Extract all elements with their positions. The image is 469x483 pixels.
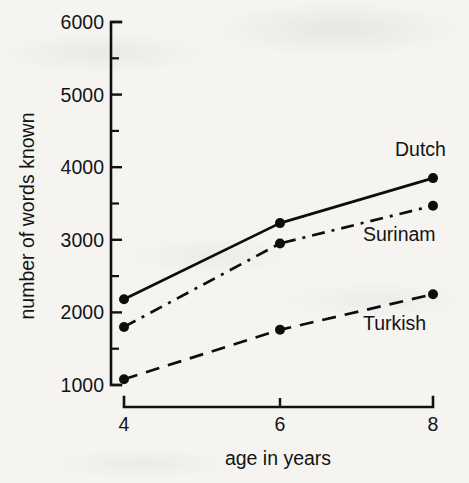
series-turkish-point-age4 [119, 374, 129, 384]
series-dutch: Dutch [119, 138, 446, 304]
x-axis-line [124, 397, 433, 407]
x-tick-label-8: 8 [428, 413, 439, 435]
y-tick-label-6000: 6000 [61, 11, 105, 33]
chart-figure: 6000 5000 4000 3000 2000 1000 number of … [0, 0, 469, 483]
series-turkish-point-age8 [428, 289, 438, 299]
series-surinam-point-age4 [119, 322, 129, 332]
y-axis-title: number of words known [16, 112, 38, 319]
x-tick-label-4: 4 [119, 413, 130, 435]
series-surinam-point-age8 [428, 201, 438, 211]
x-tick-label-6: 6 [275, 413, 286, 435]
series-dutch-point-age8 [428, 173, 438, 183]
x-axis-title: age in years [225, 447, 331, 469]
series-turkish-point-age6 [275, 325, 285, 335]
series-turkish-line [124, 294, 433, 379]
series-turkish: Turkish [119, 289, 438, 384]
series-dutch-label: Dutch [395, 138, 446, 160]
line-chart: 6000 5000 4000 3000 2000 1000 number of … [0, 0, 469, 483]
y-tick-label-5000: 5000 [61, 84, 105, 106]
series-turkish-label: Turkish [363, 312, 426, 334]
series-surinam-point-age6 [275, 238, 285, 248]
y-tick-label-3000: 3000 [61, 229, 105, 251]
series-dutch-point-age6 [275, 218, 285, 228]
series-dutch-point-age4 [119, 294, 129, 304]
series-surinam-label: Surinam [363, 223, 436, 245]
y-tick-label-2000: 2000 [61, 301, 105, 323]
y-tick-label-4000: 4000 [61, 156, 105, 178]
y-tick-label-1000: 1000 [61, 374, 105, 396]
